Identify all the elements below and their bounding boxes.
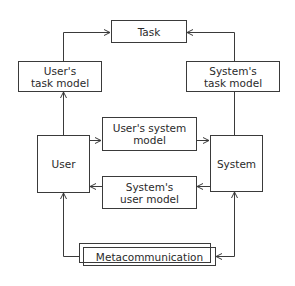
systems-user-model-node: System's user model (102, 176, 197, 209)
metacommunication-label: Metacommunication (96, 251, 203, 263)
systems-user-model-label: System's user model (120, 181, 179, 205)
user-label: User (52, 158, 76, 170)
arrow-systems-task-model-to-task (187, 33, 235, 62)
task-node: Task (111, 20, 187, 43)
users-task-model-label: User's task model (31, 65, 89, 89)
system-node: System (210, 135, 263, 192)
arrow-system-to-metacommunication (216, 201, 235, 257)
task-label: Task (138, 26, 161, 38)
users-task-model-node: User's task model (18, 61, 102, 92)
users-system-model-label: User's system model (113, 122, 187, 146)
systems-task-model-node: System's task model (186, 61, 280, 92)
arrow-metacommunication-to-user (64, 193, 80, 257)
systems-task-model-label: System's task model (204, 65, 262, 89)
system-label: System (217, 158, 256, 170)
users-system-model-node: User's system model (102, 117, 197, 151)
metacommunication-node: Metacommunication (83, 247, 216, 266)
arrow-users-task-model-to-task (64, 33, 111, 62)
user-node: User (37, 135, 90, 193)
